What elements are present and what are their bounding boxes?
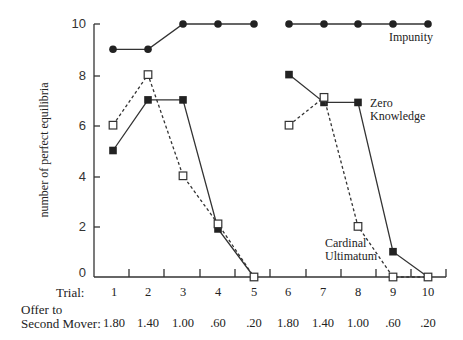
open-square-marker-icon bbox=[109, 121, 117, 129]
circle-marker-icon bbox=[424, 20, 432, 28]
offer-label-8: 1.00 bbox=[340, 316, 376, 331]
y-tick-label-10: 10 bbox=[66, 16, 86, 31]
y-axis-label: number of perfect equilibria bbox=[37, 83, 52, 218]
series-layer bbox=[109, 20, 432, 281]
open-square-marker-icon bbox=[389, 273, 397, 281]
trial-row-label: Trial: bbox=[56, 285, 84, 300]
offer-label-1: 1.80 bbox=[96, 316, 132, 331]
filled-square-marker-icon bbox=[109, 147, 117, 155]
offer-label-2: 1.40 bbox=[130, 316, 166, 331]
open-square-marker-icon bbox=[250, 273, 258, 281]
trial-label-2: 2 bbox=[130, 285, 166, 300]
circle-marker-icon bbox=[109, 46, 117, 54]
series-line bbox=[113, 24, 254, 49]
offer-label-10: .20 bbox=[410, 316, 446, 331]
offer-row-label-line2: Second Mover: bbox=[21, 316, 101, 331]
trial-label-10: 10 bbox=[410, 285, 446, 300]
series-line bbox=[113, 100, 254, 277]
open-square-marker-icon bbox=[285, 121, 293, 129]
trial-label-9: 9 bbox=[375, 285, 411, 300]
series-label-impunity: Impunity bbox=[389, 30, 433, 44]
series-label-cardinal-ultimatum-line2: Ultimatum bbox=[325, 249, 377, 263]
y-tick-label-2: 2 bbox=[66, 219, 86, 234]
axes bbox=[94, 24, 446, 277]
open-square-marker-icon bbox=[144, 71, 152, 79]
circle-marker-icon bbox=[354, 20, 362, 28]
offer-label-7: 1.40 bbox=[305, 316, 341, 331]
x-ticks bbox=[129, 269, 446, 277]
open-square-marker-icon bbox=[424, 273, 432, 281]
trial-label-5: 5 bbox=[236, 285, 272, 300]
series-label-zero-knowledge-line2: Knowledge bbox=[370, 109, 425, 123]
offer-row-label-line1: Offer to bbox=[21, 302, 62, 317]
circle-marker-icon bbox=[285, 20, 293, 28]
trial-label-8: 8 bbox=[340, 285, 376, 300]
circle-marker-icon bbox=[144, 46, 152, 54]
y-tick-label-0: 0 bbox=[66, 265, 86, 280]
y-tick-label-6: 6 bbox=[66, 118, 86, 133]
trial-label-3: 3 bbox=[165, 285, 201, 300]
offer-label-3: 1.00 bbox=[165, 316, 201, 331]
open-square-marker-icon bbox=[354, 223, 362, 231]
circle-marker-icon bbox=[320, 20, 328, 28]
filled-square-marker-icon bbox=[354, 99, 362, 107]
offer-label-9: .60 bbox=[375, 316, 411, 331]
circle-marker-icon bbox=[250, 20, 258, 28]
filled-square-marker-icon bbox=[179, 96, 187, 104]
open-square-marker-icon bbox=[320, 94, 328, 102]
y-tick-label-8: 8 bbox=[66, 68, 86, 83]
offer-label-6: 1.80 bbox=[270, 316, 306, 331]
offer-label-5: .20 bbox=[236, 316, 272, 331]
trial-label-4: 4 bbox=[200, 285, 236, 300]
offer-label-4: .60 bbox=[200, 316, 236, 331]
circle-marker-icon bbox=[179, 20, 187, 28]
filled-square-marker-icon bbox=[389, 248, 397, 256]
trial-label-7: 7 bbox=[305, 285, 341, 300]
y-tick-label-4: 4 bbox=[66, 169, 86, 184]
circle-marker-icon bbox=[214, 20, 222, 28]
trial-label-1: 1 bbox=[96, 285, 132, 300]
filled-square-marker-icon bbox=[144, 96, 152, 104]
trial-label-6: 6 bbox=[270, 285, 306, 300]
circle-marker-icon bbox=[389, 20, 397, 28]
open-square-marker-icon bbox=[179, 172, 187, 180]
series-label-zero-knowledge-line1: Zero bbox=[370, 96, 393, 110]
series-label-cardinal-ultimatum-line1: Cardinal bbox=[325, 236, 366, 250]
series-impunity bbox=[109, 20, 432, 53]
filled-square-marker-icon bbox=[285, 71, 293, 79]
open-square-marker-icon bbox=[214, 220, 222, 228]
